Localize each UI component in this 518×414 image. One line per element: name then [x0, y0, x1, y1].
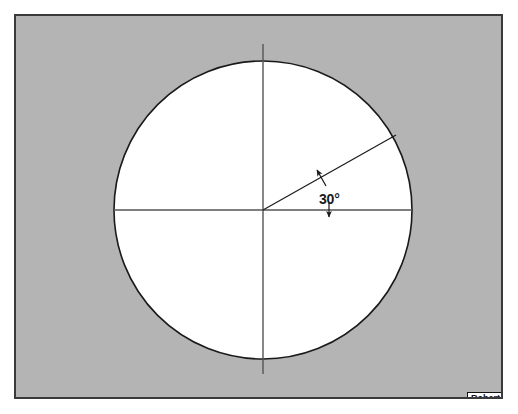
credit-box: Robert L. Beck — [467, 392, 503, 399]
diagram-frame: 30° Robert L. Beck — [14, 14, 503, 399]
figure-root: 30° Robert L. Beck — [0, 0, 518, 414]
angle-measure-label: 30° — [319, 192, 340, 206]
circle-angle-diagram — [16, 16, 501, 397]
credit-name-text: Robert L. Beck — [471, 394, 503, 399]
